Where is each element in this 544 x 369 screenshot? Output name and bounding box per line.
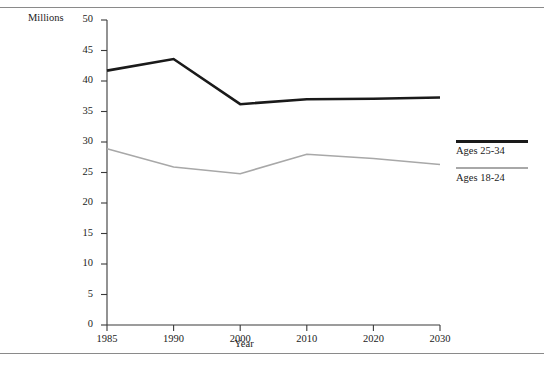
series-line-ages-18-24	[107, 149, 440, 174]
legend-swatch-ages-18-24	[456, 167, 528, 169]
legend-entry-ages-25-34: Ages 25-34	[456, 140, 536, 156]
series-line-ages-25-34	[107, 59, 440, 104]
y-tick-label: 50	[67, 13, 93, 24]
chart-figure: Millions 05101520253035404550 1985199020…	[0, 0, 544, 369]
chart-legend: Ages 25-34 Ages 18-24	[456, 140, 536, 194]
y-tick-label: 40	[67, 74, 93, 85]
y-tick-label: 35	[67, 105, 93, 116]
y-tick-label: 25	[67, 166, 93, 177]
y-tick-label: 15	[67, 227, 93, 238]
y-axis-ticks	[101, 20, 107, 325]
y-tick-label: 30	[67, 135, 93, 146]
axis-lines	[107, 20, 440, 325]
legend-swatch-ages-25-34	[456, 140, 528, 143]
legend-label-ages-18-24: Ages 18-24	[456, 172, 536, 183]
x-axis-title-text: Year	[234, 338, 253, 349]
legend-label-ages-25-34: Ages 25-34	[456, 145, 536, 156]
x-axis-ticks	[107, 325, 440, 331]
y-tick-label: 10	[67, 257, 93, 268]
x-axis-title: Year	[0, 338, 544, 349]
y-tick-label: 0	[67, 318, 93, 329]
legend-entry-ages-18-24: Ages 18-24	[456, 167, 536, 183]
y-tick-label: 20	[67, 196, 93, 207]
y-tick-label: 45	[67, 44, 93, 55]
data-series-group	[107, 59, 440, 174]
y-tick-label: 5	[67, 288, 93, 299]
